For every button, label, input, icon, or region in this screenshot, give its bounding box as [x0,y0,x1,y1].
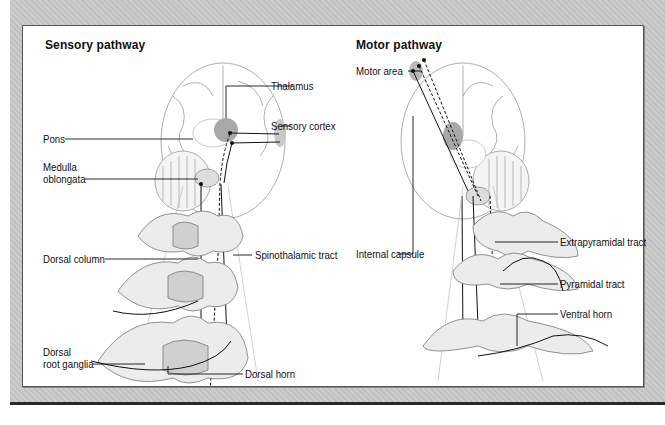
label-dorsal-column: Dorsal column [43,253,105,265]
pathway-illustration [23,26,643,386]
label-ventral-horn: Ventral horn [560,308,612,320]
label-medulla-line1: Medulla [43,161,77,173]
label-motor-area: Motor area [356,65,403,77]
label-internal-capsule: Internal capsule [356,248,424,260]
label-pons: Pons [43,133,65,145]
label-dorsal-horn: Dorsal horn [245,368,295,380]
label-dorsal-root-line2: root ganglia [43,358,94,370]
label-sensory-cortex: Sensory cortex [271,120,336,132]
bottom-rule [10,402,665,405]
label-spinothalamic-tract: Spinothalamic tract [255,249,337,261]
label-extrapyramidal-tract: Extrapyramidal tract [560,236,646,248]
diagram-panel: Sensory pathway Motor pathway Thalamus S… [22,25,644,387]
thalamus-highlight [214,118,238,142]
label-thalamus: Thalamus [271,80,314,92]
sensory-pathway-title: Sensory pathway [45,38,145,52]
label-pyramidal-tract: Pyramidal tract [560,278,625,290]
label-dorsal-root-line1: Dorsal [43,346,71,358]
sensory-spinal-sections [98,211,248,383]
label-medulla-line2: oblongata [43,173,86,185]
motor-pathway-title: Motor pathway [356,38,442,52]
